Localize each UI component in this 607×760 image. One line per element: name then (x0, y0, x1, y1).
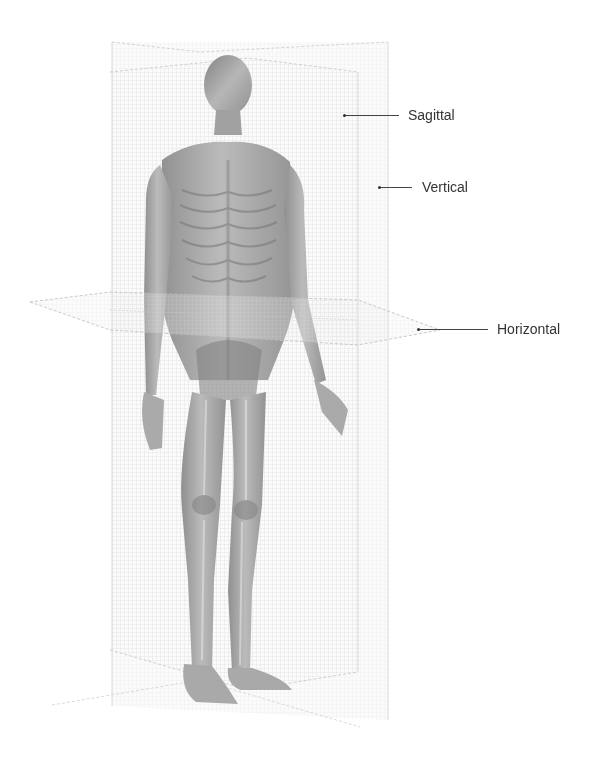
horizontal-label: Horizontal (497, 321, 560, 337)
sagittal-label: Sagittal (408, 107, 455, 123)
horizontal-leader-line (418, 329, 488, 330)
sagittal-leader-line (344, 115, 399, 116)
anatomical-planes-diagram: Sagittal Vertical Horizontal (0, 0, 607, 760)
vertical-leader-line (379, 187, 412, 188)
diagram-canvas (0, 0, 607, 760)
vertical-label: Vertical (422, 179, 468, 195)
